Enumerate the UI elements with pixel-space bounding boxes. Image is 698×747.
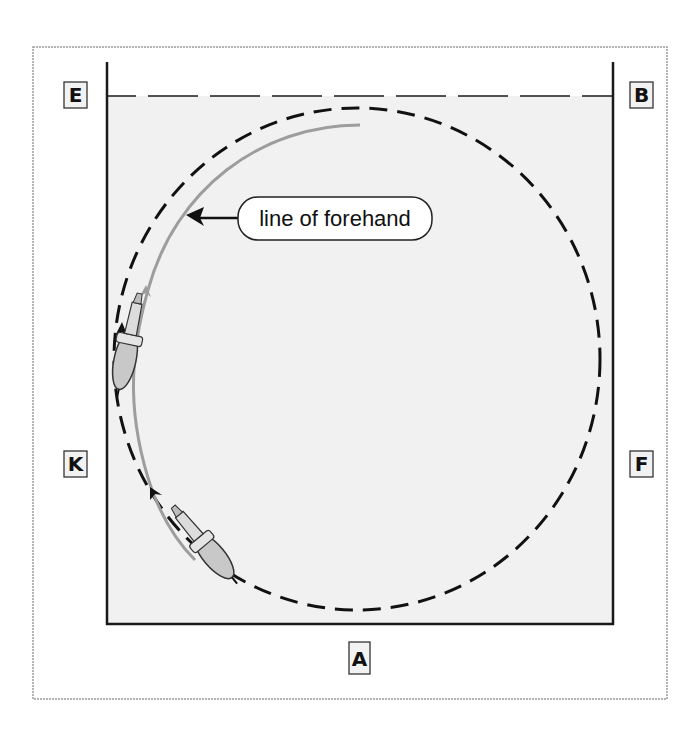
marker-a: A (349, 642, 370, 674)
marker-b: B (630, 82, 653, 108)
marker-k: K (64, 451, 87, 477)
arena-diagram: line of forehand E B K F A (0, 0, 698, 747)
svg-text:K: K (68, 452, 85, 476)
svg-text:F: F (635, 452, 649, 476)
svg-text:E: E (69, 83, 83, 107)
callout-label: line of forehand (259, 206, 411, 231)
svg-text:B: B (634, 83, 649, 107)
svg-text:A: A (352, 647, 368, 671)
marker-f: F (630, 451, 653, 477)
marker-e: E (64, 82, 87, 108)
